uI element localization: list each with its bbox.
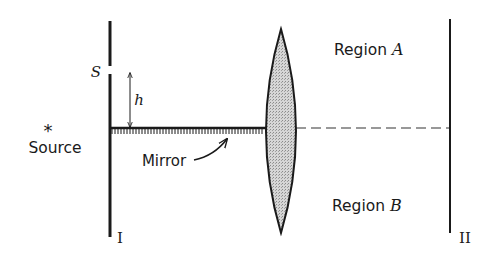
- mirror-pointer-arrow: [194, 139, 227, 160]
- screen-1-label: I: [117, 229, 123, 247]
- height-label: h: [134, 91, 144, 109]
- lens: [266, 29, 296, 233]
- screen-2-label: II: [459, 229, 471, 247]
- mirror: [110, 128, 266, 134]
- diagram: * Source S h Mirror Region A Region B I …: [0, 0, 493, 255]
- source-star-icon: *: [44, 120, 53, 141]
- slit-label: S: [91, 63, 101, 81]
- mirror-label: Mirror: [142, 152, 187, 170]
- source-label: Source: [28, 139, 81, 157]
- region-a-label: Region A: [334, 40, 404, 59]
- region-b-label: Region B: [332, 196, 402, 215]
